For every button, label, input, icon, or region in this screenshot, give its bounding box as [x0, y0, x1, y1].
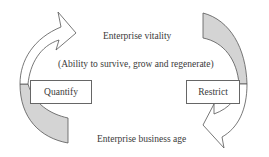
right-arrow-tail [203, 13, 247, 84]
left-arrow-head [20, 12, 76, 84]
bottom-label: Enterprise business age [97, 134, 186, 144]
subtitle-label: (Ability to survive, grow and regenerate… [58, 59, 214, 69]
top-label: Enterprise vitality [103, 31, 171, 41]
restrict-box: Restrict [186, 80, 240, 104]
quantify-box: Quantify [30, 80, 92, 104]
